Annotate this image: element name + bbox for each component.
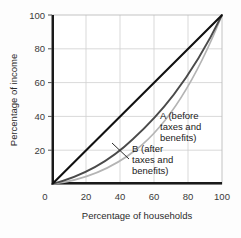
x-axis-title: Percentage of households bbox=[82, 210, 193, 221]
annotation-b-line-2: taxes and bbox=[132, 154, 173, 165]
annotation-a-line-3: benefits) bbox=[160, 132, 196, 143]
lorenz-curve-chart: 100 80 60 40 20 0 20 40 60 80 100 Percen… bbox=[0, 0, 241, 238]
y-tick-label-40: 40 bbox=[34, 111, 45, 122]
x-tick-label-20: 20 bbox=[81, 191, 92, 202]
y-axis-title: Percentage of income bbox=[8, 54, 19, 146]
x-tick-label-0: 0 bbox=[42, 191, 47, 202]
annotation-a: A (before taxes and benefits) bbox=[160, 110, 201, 143]
annotation-b-line-3: benefits) bbox=[132, 165, 168, 176]
y-tick-marks bbox=[48, 15, 52, 150]
y-tick-label-60: 60 bbox=[34, 77, 45, 88]
annotation-a-line-1: A (before bbox=[160, 110, 199, 121]
lorenz-curve-figure: 100 80 60 40 20 0 20 40 60 80 100 Percen… bbox=[0, 0, 241, 238]
y-tick-label-100: 100 bbox=[29, 10, 45, 21]
x-tick-label-60: 60 bbox=[149, 191, 160, 202]
x-tick-label-80: 80 bbox=[183, 191, 194, 202]
x-tick-label-100: 100 bbox=[214, 191, 230, 202]
y-tick-label-80: 80 bbox=[34, 43, 45, 54]
y-tick-label-20: 20 bbox=[34, 145, 45, 156]
annotation-a-line-2: taxes and bbox=[160, 121, 201, 132]
annotation-b-line-1: B (after bbox=[132, 143, 163, 154]
x-tick-label-40: 40 bbox=[115, 191, 126, 202]
